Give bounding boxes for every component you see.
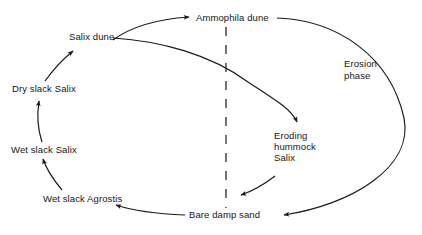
eroding-hummock-salix-line-2: hummock xyxy=(274,141,316,152)
connector-salix-dune-stub xyxy=(113,38,248,82)
node-label-dry-slack-salix: Dry slack Salix xyxy=(12,83,76,95)
eroding-hummock-salix-line-3: Salix xyxy=(274,152,316,163)
arrow-salix-dune-to-ammophila-dune xyxy=(113,17,189,40)
arrow-dry-slack-salix-to-salix-dune xyxy=(45,51,73,81)
arrow-bare-damp-sand-to-wet-slack-agrostis xyxy=(116,205,185,215)
arrow-ammophila-dune-to-bare-damp-sand-erosion-loop xyxy=(277,18,405,215)
dune-succession-diagram: Ammophila dune Salix dune Dry slack Sali… xyxy=(0,0,422,235)
erosion-phase-line-1: Erosion xyxy=(344,58,377,70)
erosion-phase-line-2: phase xyxy=(344,70,377,82)
node-label-ammophila-dune: Ammophila dune xyxy=(196,12,269,24)
arrow-wet-slack-agrostis-to-wet-slack-salix xyxy=(43,159,62,190)
arrow-wet-slack-salix-to-dry-slack-salix xyxy=(38,101,42,142)
eroding-hummock-salix-line-1: Eroding xyxy=(274,130,316,141)
node-label-wet-slack-agrostis: Wet slack Agrostis xyxy=(43,193,122,205)
arrow-eroding-hummock-salix-to-bare-damp-sand xyxy=(241,176,275,195)
annotation-erosion-phase: Erosion phase xyxy=(344,58,377,81)
node-label-bare-damp-sand: Bare damp sand xyxy=(189,209,260,221)
node-label-eroding-hummock-salix: Eroding hummock Salix xyxy=(274,130,316,163)
node-label-salix-dune: Salix dune xyxy=(69,31,114,43)
arrow-salix-dune-to-eroding-hummock-salix xyxy=(248,82,297,122)
node-label-wet-slack-salix: Wet slack Salix xyxy=(11,144,77,156)
